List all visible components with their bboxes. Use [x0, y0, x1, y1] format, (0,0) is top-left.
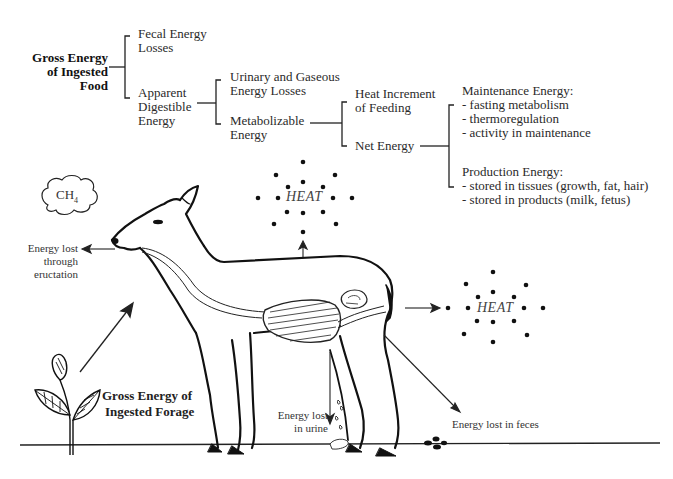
- heat-arrow-right: [405, 304, 440, 312]
- metabolizable-energy-label: Metabolizable Energy: [230, 114, 304, 142]
- methane-text: CH: [56, 187, 74, 202]
- maintenance-item: - fasting metabolism: [462, 98, 591, 112]
- urine-line-1: Energy lost: [262, 409, 328, 422]
- urine-loss-label: Energy lost in urine: [262, 409, 328, 435]
- forage-arrow: [80, 303, 133, 372]
- eructation-arrow: [82, 245, 115, 253]
- forage-line-2: Ingested Forage: [102, 404, 194, 420]
- heat-increment-line-1: Heat Increment: [355, 87, 435, 101]
- gross-energy-food-label: Gross Energy of Ingested Food: [26, 51, 108, 93]
- urine-line-2: in urine: [262, 422, 328, 435]
- urine-puddle-icon: [330, 439, 348, 449]
- maintenance-title: Maintenance Energy:: [462, 84, 591, 98]
- fecal-line-2: Losses: [138, 41, 207, 55]
- digestible-line-1: Apparent: [138, 86, 191, 100]
- digestive-tract: [142, 248, 386, 342]
- maintenance-energy-block: Maintenance Energy: - fasting metabolism…: [462, 84, 591, 140]
- root-line-3: Food: [26, 79, 108, 93]
- heat-top-label: HEAT: [286, 190, 322, 204]
- energy-partition-diagram: Gross Energy of Ingested Food Fecal Ener…: [0, 0, 673, 479]
- urinary-line-2: Energy Losses: [230, 84, 340, 98]
- methane-subscript: 4: [74, 196, 78, 205]
- feces-loss-label: Energy lost in feces: [452, 418, 539, 431]
- eructation-line-1: Energy lost: [10, 242, 78, 255]
- root-line-2: of Ingested: [26, 65, 108, 79]
- gross-energy-forage-label: Gross Energy of Ingested Forage: [102, 388, 194, 420]
- digestible-line-2: Digestible: [138, 100, 191, 114]
- production-energy-block: Production Energy: - stored in tissues (…: [462, 165, 648, 207]
- production-item: - stored in products (milk, fetus): [462, 193, 648, 207]
- eructation-line-2: through: [10, 255, 78, 268]
- digestible-line-3: Energy: [138, 114, 191, 128]
- eructation-line-3: eructation: [10, 268, 78, 281]
- fecal-line-1: Fecal Energy: [138, 27, 207, 41]
- heat-right-label: HEAT: [477, 301, 513, 315]
- eructation-label: Energy lost through eructation: [10, 242, 78, 281]
- urinary-gaseous-losses-label: Urinary and Gaseous Energy Losses: [230, 70, 340, 98]
- heat-increment-line-2: of Feeding: [355, 101, 435, 115]
- urine-drops-icon: [335, 400, 343, 429]
- forage-line-1: Gross Energy of: [102, 388, 194, 404]
- urinary-line-1: Urinary and Gaseous: [230, 70, 340, 84]
- production-item: - stored in tissues (growth, fat, hair): [462, 179, 648, 193]
- metabolizable-line-2: Energy: [230, 128, 304, 142]
- heat-increment-label: Heat Increment of Feeding: [355, 87, 435, 115]
- heat-arrow-up: [299, 241, 307, 257]
- maintenance-item: - activity in maintenance: [462, 126, 591, 140]
- methane-label: CH4: [56, 188, 78, 208]
- plant-icon: [35, 354, 100, 455]
- net-energy-label: Net Energy: [355, 139, 414, 153]
- metabolizable-line-1: Metabolizable: [230, 114, 304, 128]
- feces-icon: [424, 437, 447, 450]
- apparent-digestible-energy-label: Apparent Digestible Energy: [138, 86, 191, 128]
- net-line-1: Net Energy: [355, 139, 414, 153]
- root-line-1: Gross Energy: [26, 51, 108, 65]
- maintenance-item: - thermoregulation: [462, 112, 591, 126]
- production-title: Production Energy:: [462, 165, 648, 179]
- fecal-energy-losses-label: Fecal Energy Losses: [138, 27, 207, 55]
